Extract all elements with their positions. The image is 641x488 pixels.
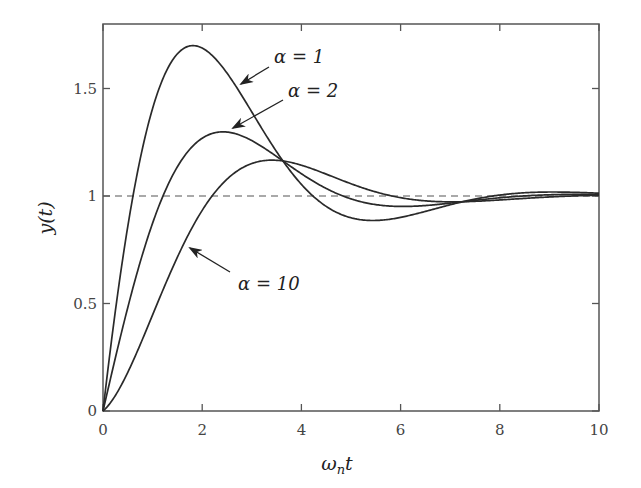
series-curves (103, 46, 599, 411)
y-tick-label: 1.5 (73, 80, 97, 98)
curve-2 (103, 132, 599, 411)
arrow-alpha1 (241, 67, 269, 84)
annotation-alpha2: α = 2 (233, 80, 338, 128)
x-tick-label: 0 (98, 421, 108, 439)
arrow-alpha10 (190, 248, 230, 272)
y-tick-label: 0.5 (73, 295, 97, 313)
curve-1 (103, 46, 599, 411)
x-tick-label: 2 (197, 421, 207, 439)
curve-10 (103, 160, 599, 411)
annotation-alpha10: α = 10 (190, 248, 300, 294)
x-tick-label: 10 (589, 421, 608, 439)
y-tick-label: 1 (87, 187, 97, 205)
axis-ticks: 024681000.511.5 (73, 24, 608, 439)
y-axis-label: y(t) (34, 201, 56, 235)
annotation-alpha1: α = 1 (241, 46, 324, 84)
label-alpha1: α = 1 (274, 46, 324, 67)
label-alpha10: α = 10 (238, 273, 300, 294)
label-alpha2: α = 2 (288, 80, 338, 101)
x-axis-label: ωnt (321, 452, 353, 477)
x-tick-label: 6 (396, 421, 406, 439)
x-tick-label: 4 (297, 421, 307, 439)
y-tick-label: 0 (87, 402, 97, 420)
step-response-chart: 024681000.511.5 α = 1 α = 2 α = 10 ωnt y… (0, 0, 641, 488)
x-tick-label: 8 (495, 421, 505, 439)
